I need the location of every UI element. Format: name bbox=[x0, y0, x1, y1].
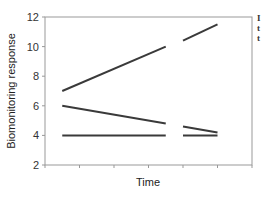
series-rising bbox=[62, 24, 217, 91]
y-tick-label: 10 bbox=[27, 41, 39, 53]
y-tick-label: 12 bbox=[27, 11, 39, 23]
y-axis-title: Biomonitoring response bbox=[5, 33, 17, 149]
series-declining bbox=[62, 106, 217, 133]
line-chart: 24681012 Time Biomonitoring response bbox=[0, 0, 266, 199]
line-segment bbox=[62, 106, 166, 124]
line-segment bbox=[183, 127, 218, 133]
plot-area-border bbox=[45, 17, 252, 165]
side-text-line: I bbox=[257, 13, 261, 23]
y-tick-label: 2 bbox=[33, 159, 39, 171]
series-lines bbox=[62, 24, 217, 135]
plot-frame bbox=[45, 17, 252, 165]
side-text-fragment: I t t bbox=[257, 13, 261, 43]
side-text-line: t bbox=[257, 33, 261, 43]
y-tick-label: 6 bbox=[33, 100, 39, 112]
line-segment bbox=[62, 47, 166, 91]
side-text-line: t bbox=[257, 23, 261, 33]
line-segment bbox=[183, 24, 218, 40]
y-tick-label: 4 bbox=[33, 129, 39, 141]
y-tick-label: 8 bbox=[33, 70, 39, 82]
y-axis: 24681012 bbox=[27, 11, 45, 171]
x-axis-title: Time bbox=[136, 176, 160, 188]
